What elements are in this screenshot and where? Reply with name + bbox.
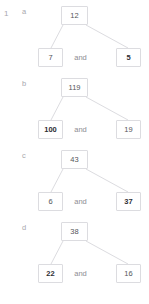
bond-total-box-c[interactable]: 43: [61, 150, 88, 169]
bond-part-left-value-c: 6: [48, 197, 52, 206]
number-bond-group-b: b 119 100 and 19: [0, 76, 149, 148]
bond-part-right-value-c: 37: [124, 197, 132, 206]
bond-total-box-d[interactable]: 38: [61, 222, 88, 241]
bond-total-value-c: 43: [70, 155, 78, 164]
bond-total-box-b[interactable]: 119: [61, 78, 88, 97]
bond-part-left-value-d: 22: [46, 269, 54, 278]
bond-part-right-value-d: 16: [124, 269, 132, 278]
worksheet-page: 1 a 12 7 and 5 b: [0, 0, 149, 304]
bond-part-left-box-a[interactable]: 7: [38, 48, 63, 67]
bond-total-value-a: 12: [70, 11, 78, 20]
number-bond-diagram-d: 38 22 and 16: [0, 220, 149, 292]
bond-part-left-value-a: 7: [48, 53, 52, 62]
number-bond-diagram-b: 119 100 and 19: [0, 76, 149, 148]
bond-and-label-a: and: [68, 48, 93, 67]
bond-total-value-d: 38: [70, 227, 78, 236]
bond-and-label-c: and: [68, 192, 93, 211]
number-bond-group-a: a 12 7 and 5: [0, 4, 149, 76]
bond-part-right-value-b: 19: [124, 125, 132, 134]
bond-part-right-box-d[interactable]: 16: [116, 264, 141, 283]
bond-part-right-box-c[interactable]: 37: [116, 192, 141, 211]
bond-and-label-d: and: [68, 264, 93, 283]
bond-part-left-box-c[interactable]: 6: [38, 192, 63, 211]
number-bond-group-c: c 43 6 and 37: [0, 148, 149, 220]
bond-part-left-value-b: 100: [44, 125, 57, 134]
number-bond-diagram-c: 43 6 and 37: [0, 148, 149, 220]
bond-part-left-box-b[interactable]: 100: [38, 120, 63, 139]
bond-part-right-box-b[interactable]: 19: [116, 120, 141, 139]
bond-total-value-b: 119: [69, 83, 81, 92]
number-bond-diagram-a: 12 7 and 5: [0, 4, 149, 76]
bond-total-box-a[interactable]: 12: [61, 6, 88, 25]
bond-and-label-b: and: [68, 120, 93, 139]
bond-part-right-box-a[interactable]: 5: [116, 48, 141, 67]
bond-part-right-value-a: 5: [126, 53, 130, 62]
bond-part-left-box-d[interactable]: 22: [38, 264, 63, 283]
number-bond-group-d: d 38 22 and 16: [0, 220, 149, 292]
